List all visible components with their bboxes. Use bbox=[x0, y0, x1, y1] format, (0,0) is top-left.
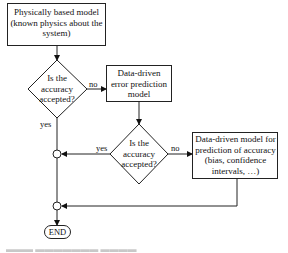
decision-1-line2: accuracy bbox=[33, 84, 81, 95]
accuracy-model-line2: prediction of accuracy bbox=[193, 145, 278, 156]
end-label: END bbox=[44, 227, 71, 237]
decision-2-line2: accuracy bbox=[115, 149, 163, 160]
physical-model-line3: system) bbox=[8, 28, 105, 39]
edge-accuracymodel-to-junction2 bbox=[62, 179, 237, 207]
error-model-line2: error prediction bbox=[107, 79, 171, 90]
decision-2-label: Is the accuracy accepted? bbox=[115, 138, 163, 170]
decision-2-line1: Is the bbox=[115, 138, 163, 149]
decision-1-line1: Is the bbox=[33, 73, 81, 84]
junction-2 bbox=[53, 202, 61, 210]
physical-model-line2: (known physics about the bbox=[8, 18, 105, 29]
decision-1-no-label: no bbox=[89, 79, 98, 89]
junction-1 bbox=[53, 150, 61, 158]
error-model-label: Data-driven error prediction model bbox=[107, 68, 171, 100]
physical-model-label: Physically based model (known physics ab… bbox=[8, 7, 105, 39]
decision-1-label: Is the accuracy accepted? bbox=[33, 73, 81, 105]
accuracy-model-line3: (bias, confidence bbox=[193, 155, 278, 166]
decision-1-line3: accepted? bbox=[33, 94, 81, 105]
decision-2-line3: accepted? bbox=[115, 159, 163, 170]
error-model-line3: model bbox=[107, 89, 171, 100]
physical-model-line1: Physically based model bbox=[8, 7, 105, 18]
decision-2-yes-label: yes bbox=[96, 143, 107, 153]
accuracy-model-line1: Data-driven model for bbox=[193, 134, 278, 145]
error-model-line1: Data-driven bbox=[107, 68, 171, 79]
faded-caption-strip: ▬▬▬ ▬▬▬▬▬▬▬ ▬▬▬▬ bbox=[6, 244, 137, 253]
decision-1-yes-label: yes bbox=[40, 119, 51, 129]
accuracy-model-label: Data-driven model for prediction of accu… bbox=[193, 134, 278, 176]
decision-2-no-label: no bbox=[171, 143, 180, 153]
accuracy-model-line4: intervals, …) bbox=[193, 166, 278, 177]
